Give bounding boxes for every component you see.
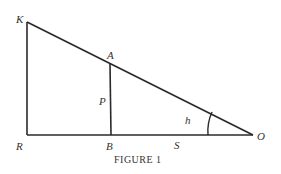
triangle-diagram xyxy=(0,0,281,174)
label-K: K xyxy=(16,14,23,25)
angle-h-arc xyxy=(208,112,212,135)
label-P: P xyxy=(99,96,106,107)
label-R: R xyxy=(16,141,23,152)
segment-KO xyxy=(27,22,253,135)
label-O: O xyxy=(257,131,265,142)
label-A: A xyxy=(107,50,114,61)
label-h: h xyxy=(185,115,191,126)
figure-caption: FIGURE 1 xyxy=(114,155,162,165)
label-B: B xyxy=(106,141,113,152)
segment-AB xyxy=(110,64,111,135)
label-S: S xyxy=(174,140,180,151)
